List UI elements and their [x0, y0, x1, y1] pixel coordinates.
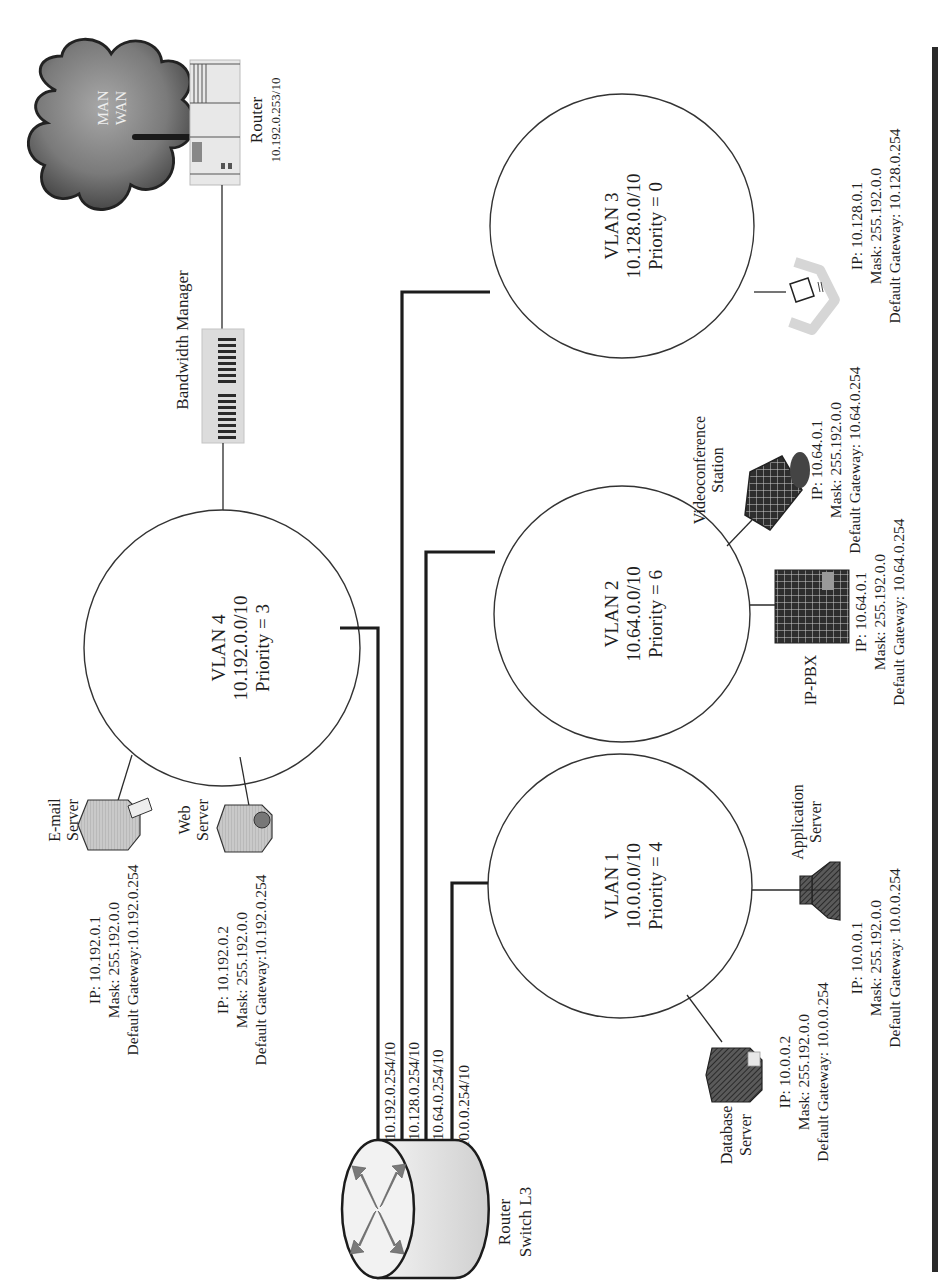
videoconference-name-2: Station	[709, 447, 726, 492]
wan-cloud[interactable]: MAN WAN	[28, 39, 194, 209]
core-router-name: Router	[495, 1199, 514, 1246]
vlan-2-name: VLAN 2	[601, 580, 622, 647]
web-server-gateway: Default Gateway:10.192.0.254	[252, 874, 269, 1065]
database-server[interactable]: Database Server IP: 10.0.0.2 Mask: 255.1…	[706, 982, 831, 1164]
vlan-2-circle	[494, 486, 750, 742]
vlan-1-priority: Priority = 4	[645, 842, 666, 930]
email-server-name-2: Server	[64, 798, 81, 840]
web-server-mask: Mask: 255.192.0.0	[233, 912, 250, 1029]
edge-router-name: Router	[247, 97, 266, 144]
port-label-vlan4: 10.192.0.254/10	[382, 1042, 398, 1140]
database-server-mask: Mask: 255.192.0.0	[795, 1014, 812, 1131]
layer3-switch-icon	[342, 1140, 489, 1278]
vlan-1[interactable]: VLAN 1 10.0.0.0/10 Priority = 4	[488, 754, 752, 1018]
videoconference-icon	[745, 452, 810, 530]
vlan-2-network: 10.64.0.0/10	[623, 566, 644, 662]
web-server-icon	[217, 805, 272, 852]
vlan-2[interactable]: VLAN 2 10.64.0.0/10 Priority = 6	[494, 486, 750, 742]
vlan-3-name: VLAN 3	[601, 192, 622, 259]
core-router[interactable]: Router Switch L3	[342, 1140, 535, 1278]
wan-label-man: MAN	[95, 90, 111, 125]
vlan-4-priority: Priority = 3	[252, 604, 273, 692]
email-server-icon	[78, 798, 152, 850]
ip-pbx-gateway: Default Gateway: 10.64.0.254	[890, 518, 907, 705]
application-server[interactable]: Application Server IP: 10.0.0.1 Mask: 25…	[789, 784, 903, 1048]
ip-pbx-mask: Mask: 255.192.0.0	[871, 554, 888, 671]
email-server-name-1: E-mail	[46, 798, 63, 842]
database-server-ip: IP: 10.0.0.2	[776, 1036, 793, 1108]
port-label-vlan2: 10.64.0.254/10	[430, 1050, 446, 1140]
workstation-gateway: Default Gateway: 10.128.0.254	[886, 128, 903, 323]
wan-label-wan: WAN	[113, 91, 129, 125]
web-server-ip: IP: 10.192.0.2	[214, 926, 231, 1014]
database-server-name-2: Server	[737, 1113, 754, 1155]
application-server-gateway: Default Gateway: 10.0.0.254	[886, 868, 903, 1048]
email-server-mask: Mask: 255.192.0.0	[105, 902, 122, 1019]
cloud-icon	[28, 39, 194, 209]
email-server-ip: IP: 10.192.0.1	[86, 916, 103, 1004]
videoconference-name-1: Videoconference	[691, 416, 708, 524]
workstation-ip: IP: 10.128.0.1	[848, 182, 865, 270]
vlan-4-name: VLAN 4	[208, 614, 229, 682]
web-server[interactable]: Web Server IP: 10.192.0.2 Mask: 255.192.…	[176, 798, 272, 1065]
vlan-3[interactable]: VLAN 3 10.128.0.0/10 Priority = 0	[490, 94, 754, 358]
edge-router[interactable]: Router 10.192.0.253/10	[190, 60, 283, 185]
vlan-3-network: 10.128.0.0/10	[623, 173, 644, 278]
vlan-1-name: VLAN 1	[601, 852, 622, 919]
videoconference-gateway: Default Gateway: 10.64.0.254	[846, 366, 863, 553]
link-videoconference	[727, 520, 752, 546]
database-server-icon	[706, 1048, 762, 1102]
router-rack-icon	[190, 60, 240, 185]
core-router-type: Switch L3	[516, 1187, 535, 1257]
vlan-3-priority: Priority = 0	[645, 182, 666, 270]
email-server-gateway: Default Gateway:10.192.0.254	[124, 864, 141, 1055]
database-server-name-1: Database	[718, 1106, 735, 1165]
ip-pbx-name: IP-PBX	[802, 654, 819, 705]
link-database-server	[687, 995, 722, 1042]
workstation-icon	[790, 262, 835, 330]
vlan-2-priority: Priority = 6	[645, 570, 666, 658]
trunk-links	[340, 292, 495, 1140]
application-server-icon	[800, 862, 840, 920]
vlan-4[interactable]: VLAN 4 10.192.0.0/10 Priority = 3	[84, 510, 360, 786]
database-server-gateway: Default Gateway: 10.0.0.254	[814, 982, 831, 1162]
application-server-mask: Mask: 255.192.0.0	[867, 900, 884, 1017]
videoconference-mask: Mask: 255.192.0.0	[827, 402, 844, 519]
email-server[interactable]: E-mail Server IP: 10.192.0.1 Mask: 255.1…	[46, 798, 152, 1056]
page-border-rule	[932, 47, 938, 1272]
application-server-name-1: Application	[789, 784, 807, 860]
workstation-mask: Mask: 255.192.0.0	[867, 168, 884, 285]
ip-pbx[interactable]: IP-PBX IP: 10.64.0.1 Mask: 255.192.0.0 D…	[775, 518, 907, 705]
application-server-name-2: Server	[807, 800, 824, 842]
bandwidth-manager[interactable]: Bandwidth Manager	[173, 270, 244, 443]
ip-pbx-icon	[775, 570, 849, 643]
port-label-vlan3: 10.128.0.254/10	[406, 1042, 422, 1140]
web-server-name-2: Server	[194, 798, 211, 840]
vlan-4-network: 10.192.0.0/10	[230, 595, 251, 700]
edge-router-ip: 10.192.0.253/10	[268, 78, 283, 163]
bandwidth-manager-icon	[202, 329, 244, 443]
application-server-ip: IP: 10.0.0.1	[848, 922, 865, 994]
ip-pbx-ip: IP: 10.64.0.1	[852, 572, 869, 652]
workstation[interactable]: IP: 10.128.0.1 Mask: 255.192.0.0 Default…	[790, 128, 903, 330]
videoconference-ip: IP: 10.64.0.1	[808, 420, 825, 500]
network-diagram: MAN WAN Router 10.192.0.253/10	[0, 0, 947, 1288]
vlan-1-network: 10.0.0.0/10	[623, 843, 644, 929]
web-server-name-1: Web	[176, 806, 193, 835]
link-vlan3	[402, 292, 490, 1140]
bandwidth-manager-label: Bandwidth Manager	[173, 270, 192, 410]
port-label-vlan1: 10.0.0.254/10	[456, 1065, 472, 1148]
vlan-3-circle	[490, 94, 754, 358]
videoconference-station[interactable]: Videoconference Station IP: 10.64.0.1 Ma…	[691, 366, 863, 553]
